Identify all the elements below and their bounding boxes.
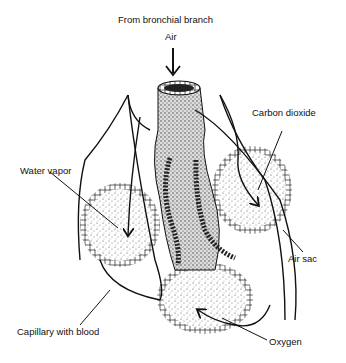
label-oxygen: Oxygen [269,336,302,347]
alveoli-diagram [0,0,346,363]
label-water-vapor: Water vapor [20,165,71,176]
air-sac-bottom [157,262,253,334]
label-air: Air [165,31,177,42]
label-source: From bronchial branch [118,14,213,25]
air-sac-right [212,146,292,234]
air-arrow-icon [166,48,180,75]
label-air-sac: Air sac [288,253,317,264]
label-carbon-dioxide: Carbon dioxide [252,107,316,118]
label-capillary: Capillary with blood [17,326,99,337]
